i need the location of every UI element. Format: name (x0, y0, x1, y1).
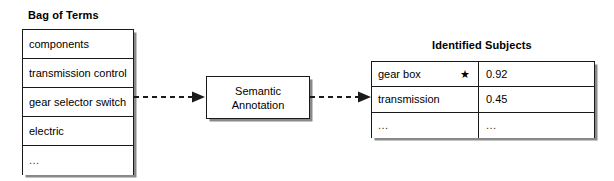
list-item: transmission control (23, 59, 133, 88)
semantic-annotation-process: Semantic Annotation (206, 76, 310, 119)
list-item: gear selector switch (23, 88, 133, 117)
subject-name: transmission (378, 93, 440, 105)
list-item: ... (23, 146, 133, 175)
term-label: transmission control (29, 68, 127, 79)
subject-score: 0.45 (486, 93, 507, 105)
term-label: components (29, 39, 89, 50)
subject-score-cell: 0.45 (479, 87, 594, 111)
table-row: transmission 0.45 (372, 87, 594, 112)
star-icon: ★ (460, 69, 470, 80)
term-label: ... (29, 155, 40, 166)
bag-of-terms-title: Bag of Terms (28, 9, 99, 21)
term-label: gear selector switch (29, 97, 126, 108)
subject-name-cell: gear box ★ (372, 62, 479, 86)
table-row: ... ... (372, 113, 594, 138)
bag-of-terms-list: components transmission control gear sel… (22, 29, 134, 175)
subject-name: ... (378, 119, 389, 131)
list-item: electric (23, 117, 133, 146)
identified-subjects-title: Identified Subjects (432, 39, 532, 51)
subject-name-cell: transmission (372, 87, 479, 111)
diagram-canvas: Bag of Terms components transmission con… (0, 0, 614, 181)
identified-subjects-table: gear box ★ 0.92 transmission 0.45 ... ..… (371, 61, 595, 138)
subject-score-cell: ... (479, 113, 594, 138)
subject-score: 0.92 (486, 68, 507, 80)
term-label: electric (29, 126, 64, 137)
process-label-line2: Annotation (232, 98, 285, 112)
table-row: gear box ★ 0.92 (372, 62, 594, 87)
subject-score: ... (486, 119, 497, 131)
dashed-arrow-icon (134, 91, 206, 103)
dashed-arrow-icon (310, 91, 372, 103)
subject-score-cell: 0.92 (479, 62, 594, 86)
process-label-line1: Semantic (235, 84, 281, 98)
list-item: components (23, 30, 133, 59)
subject-name-cell: ... (372, 113, 479, 138)
subject-name: gear box (378, 68, 421, 80)
